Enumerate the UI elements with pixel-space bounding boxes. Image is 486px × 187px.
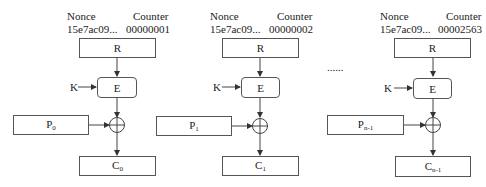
xor-icon (110, 118, 125, 133)
plaintext-box: P1 (156, 116, 232, 136)
register-label: R (429, 42, 436, 54)
nonce-label: Nonce (67, 10, 96, 22)
register-box: R (222, 38, 299, 58)
encrypt-label: E (257, 82, 264, 94)
encrypt-box: E (413, 78, 452, 99)
ciphertext-label: C1 (255, 159, 266, 173)
plaintext-label: P0 (46, 118, 56, 132)
encrypt-box: E (241, 77, 280, 98)
ciphertext-label: Cn-1 (425, 160, 442, 174)
xor-icon (253, 119, 268, 134)
ellipsis-continuation: ...... (327, 61, 344, 73)
nonce-value: 15e7ac09... (67, 23, 117, 35)
counter-value: 00002563 (438, 23, 482, 35)
key-label: K (70, 81, 78, 93)
register-label: R (114, 42, 121, 54)
register-box: R (79, 38, 156, 58)
xor-icon (426, 118, 441, 133)
block-3-wires (394, 57, 441, 155)
counter-label: Counter (446, 10, 481, 22)
plaintext-box: P0 (13, 115, 89, 135)
plaintext-box: Pn-1 (327, 115, 404, 135)
encrypt-label: E (114, 82, 121, 94)
key-label: K (213, 81, 221, 93)
ciphertext-label: C0 (112, 159, 123, 173)
ciphertext-box: C1 (222, 156, 299, 176)
plaintext-label: P1 (189, 119, 199, 133)
ciphertext-box: C0 (79, 156, 156, 176)
ciphertext-box: Cn-1 (395, 156, 471, 177)
register-label: R (257, 42, 264, 54)
nonce-value: 15e7ac09... (210, 23, 260, 35)
counter-value: 00000001 (126, 23, 170, 35)
key-label: K (384, 82, 392, 94)
block-1-wires (78, 57, 125, 155)
nonce-value: 15e7ac09... (380, 23, 430, 35)
encrypt-box: E (97, 77, 137, 98)
nonce-label: Nonce (380, 10, 409, 22)
counter-value: 00000002 (269, 23, 313, 35)
plaintext-label: Pn-1 (358, 118, 373, 132)
register-box: R (394, 38, 471, 58)
nonce-label: Nonce (210, 10, 239, 22)
counter-label: Counter (277, 10, 312, 22)
counter-label: Counter (133, 10, 168, 22)
encrypt-label: E (429, 83, 436, 95)
block-2-wires (222, 57, 268, 155)
